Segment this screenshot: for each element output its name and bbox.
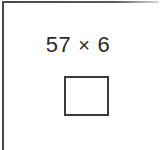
second-operand: 6 [97, 33, 110, 57]
first-operand: 57 [46, 33, 71, 57]
problem-body: 57×6 [4, 3, 160, 150]
math-expression: 57×6 [4, 33, 152, 57]
worksheet-problem-cell: 57×6 [0, 0, 160, 150]
answer-input-box[interactable] [64, 76, 109, 116]
multiplication-sign-icon: × [78, 33, 90, 57]
